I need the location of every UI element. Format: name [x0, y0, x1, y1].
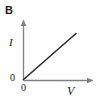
figure-panel: B I V 0 0	[0, 0, 102, 105]
y-axis-origin-tick-label: 0	[10, 73, 15, 83]
panel-label: B	[5, 5, 13, 16]
x-axis-origin-tick-label: 0	[21, 83, 26, 93]
y-axis-label: I	[9, 37, 13, 48]
data-line-iv	[24, 34, 77, 80]
plot-area	[0, 0, 102, 105]
x-axis-label: V	[67, 85, 74, 97]
